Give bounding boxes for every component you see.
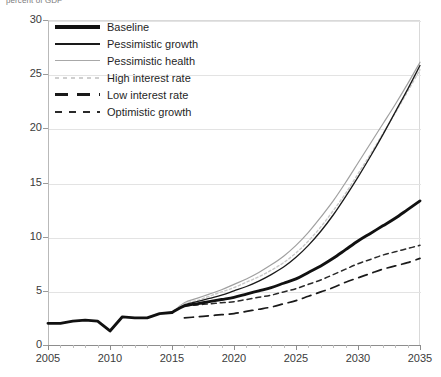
legend-item-high-interest-rate[interactable]: High interest rate xyxy=(55,69,198,86)
series-line-low-interest-rate xyxy=(184,258,420,318)
legend-label-low-interest-rate: Low interest rate xyxy=(107,89,188,101)
legend-label-pessimistic-health: Pessimistic health xyxy=(107,55,195,67)
series-line-pessimistic-growth xyxy=(172,66,420,313)
legend-swatch-pessimistic-growth-icon xyxy=(55,38,100,50)
legend-item-pessimistic-health[interactable]: Pessimistic health xyxy=(55,52,198,69)
legend-item-baseline[interactable]: Baseline xyxy=(55,18,198,35)
series-line-high-interest-rate xyxy=(172,70,420,313)
legend-item-low-interest-rate[interactable]: Low interest rate xyxy=(55,86,198,103)
legend-item-pessimistic-growth[interactable]: Pessimistic growth xyxy=(55,35,198,52)
chart-legend: Baseline Pessimistic growth Pessimistic … xyxy=(55,18,198,120)
legend-label-pessimistic-growth: Pessimistic growth xyxy=(107,38,198,50)
legend-swatch-baseline-icon xyxy=(55,21,100,33)
legend-label-high-interest-rate: High interest rate xyxy=(107,72,191,84)
legend-swatch-optimistic-growth-icon xyxy=(55,106,100,118)
line-chart: percent of GDP 051015202530 200520102015… xyxy=(0,0,441,377)
series-line-pessimistic-health xyxy=(172,62,420,312)
legend-swatch-pessimistic-health-icon xyxy=(55,55,100,67)
legend-label-baseline: Baseline xyxy=(107,21,149,33)
legend-swatch-high-interest-rate-icon xyxy=(55,72,100,84)
legend-item-optimistic-growth[interactable]: Optimistic growth xyxy=(55,103,198,120)
legend-swatch-low-interest-rate-icon xyxy=(55,89,100,101)
series-line-historical xyxy=(48,313,172,331)
legend-label-optimistic-growth: Optimistic growth xyxy=(107,106,191,118)
